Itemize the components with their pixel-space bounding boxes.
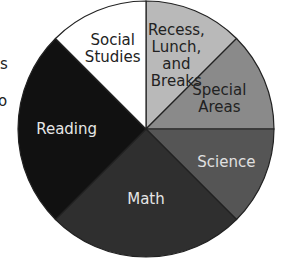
cropped-text-o: o	[0, 92, 7, 110]
slice-label: Special Areas	[192, 82, 246, 116]
cropped-text-s: s	[0, 55, 8, 73]
slice-label: Math	[127, 191, 165, 208]
slice-label: Recess, Lunch, and Breaks	[148, 22, 205, 90]
pie-chart	[0, 0, 283, 280]
slice-label: Reading	[36, 121, 97, 138]
slice-label: Social Studies	[85, 32, 141, 66]
slice-label: Science	[197, 154, 255, 171]
